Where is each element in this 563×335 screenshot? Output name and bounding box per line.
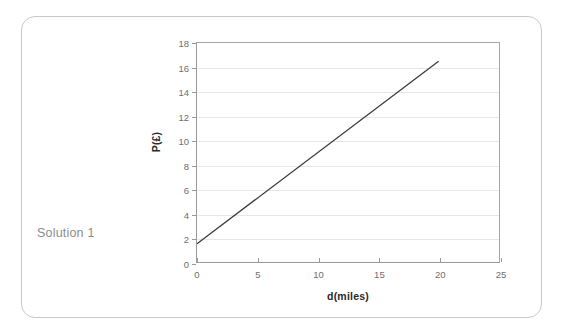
x-tick-label: 5 [255, 269, 260, 280]
y-tick-mark [192, 239, 196, 240]
y-axis-title: P(£) [150, 132, 162, 153]
y-tick-mark [192, 215, 196, 216]
y-tick-label: 6 [184, 185, 189, 196]
y-tick-label: 8 [184, 160, 189, 171]
y-tick-label: 4 [184, 209, 189, 220]
y-tick-label: 0 [184, 259, 189, 270]
x-tick-label: 0 [194, 269, 199, 280]
y-tick-label: 2 [184, 234, 189, 245]
data-line-svg [197, 43, 499, 262]
y-tick-mark [192, 117, 196, 118]
x-tick-mark [501, 258, 502, 262]
y-tick-mark [192, 190, 196, 191]
x-tick-label: 20 [435, 269, 446, 280]
y-tick-mark [192, 92, 196, 93]
screenshot-page: Solution 1 024681012141618 0510152025 d(… [0, 0, 563, 335]
y-tick-label: 18 [178, 38, 189, 49]
y-tick-label: 12 [178, 111, 189, 122]
line-chart: 024681012141618 0510152025 d(miles) P(£) [140, 32, 520, 307]
y-tick-mark [192, 68, 196, 69]
x-axis-title: d(miles) [196, 290, 500, 302]
x-tick-label: 10 [313, 269, 324, 280]
y-tick-mark [192, 43, 196, 44]
x-tick-label: 25 [496, 269, 507, 280]
solution-caption: Solution 1 [37, 226, 95, 240]
y-tick-mark [192, 166, 196, 167]
y-tick-mark [192, 141, 196, 142]
y-tick-label: 14 [178, 87, 189, 98]
y-tick-label: 16 [178, 62, 189, 73]
x-tick-label: 15 [374, 269, 385, 280]
y-tick-label: 10 [178, 136, 189, 147]
plot-area: 024681012141618 0510152025 [196, 42, 500, 263]
y-tick-mark [192, 264, 196, 265]
series-line-p-against-d [197, 61, 439, 243]
